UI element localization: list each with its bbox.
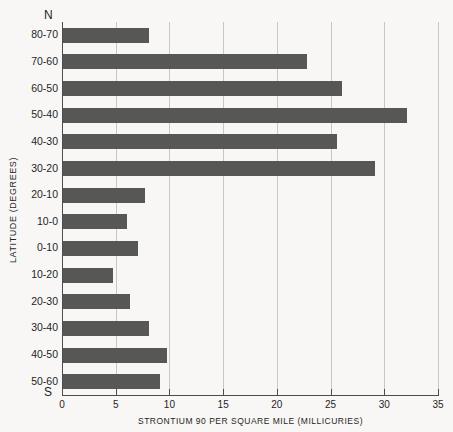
bar [63, 214, 127, 229]
y-axis-title: LATITUDE (DEGREES) [8, 135, 18, 285]
gridline [384, 22, 385, 395]
x-axis-tick [223, 389, 224, 396]
x-axis-tick [438, 389, 439, 396]
bar [63, 161, 375, 176]
gridline [277, 22, 278, 395]
x-axis-tick-label: 15 [218, 399, 229, 410]
gridline [169, 22, 170, 395]
bar [63, 81, 342, 96]
y-axis-tick-label: 80-70 [4, 28, 58, 40]
x-axis-tick-label: 35 [432, 399, 443, 410]
y-axis-tick-label: 50-60 [4, 375, 58, 387]
gridline [116, 22, 117, 395]
y-axis-tick-label: 60-50 [4, 82, 58, 94]
bar [63, 54, 307, 69]
x-axis-tick [169, 389, 170, 396]
x-axis-tick [62, 389, 63, 396]
gridline [331, 22, 332, 395]
y-axis-tick-label: 30-40 [4, 321, 58, 333]
bar [63, 188, 145, 203]
bar [63, 134, 337, 149]
x-axis-line [62, 395, 439, 396]
y-axis-tick-label: 70-60 [4, 55, 58, 67]
x-axis-tick-label: 20 [271, 399, 282, 410]
page-caption [18, 0, 438, 9]
bar [63, 108, 407, 123]
y-axis-tick-label: 50-40 [4, 108, 58, 120]
x-axis-tick [384, 389, 385, 396]
gridline [223, 22, 224, 395]
bar [63, 321, 149, 336]
bar [63, 348, 167, 363]
plot-area [62, 22, 438, 395]
x-axis-tick-label: 30 [379, 399, 390, 410]
bar [63, 28, 149, 43]
x-axis-title: STRONTIUM 90 PER SQUARE MILE (MILLICURIE… [62, 416, 439, 426]
gridline [438, 22, 439, 395]
bar [63, 374, 160, 389]
x-axis-tick-label: 10 [164, 399, 175, 410]
y-axis-tick-label: 40-50 [4, 348, 58, 360]
bar [63, 268, 113, 283]
strontium-90-latitude-bar-chart: N S 80-7070-6060-5050-4040-3030-2020-101… [0, 0, 453, 432]
y-axis-tick-label: 20-30 [4, 295, 58, 307]
x-axis-tick-label: 25 [325, 399, 336, 410]
x-axis-tick [277, 389, 278, 396]
x-axis-tick-label: 5 [113, 399, 119, 410]
x-axis-tick [331, 389, 332, 396]
x-axis-tick-label: 0 [59, 399, 65, 410]
x-axis-tick [116, 389, 117, 396]
bar [63, 294, 130, 309]
bar [63, 241, 138, 256]
